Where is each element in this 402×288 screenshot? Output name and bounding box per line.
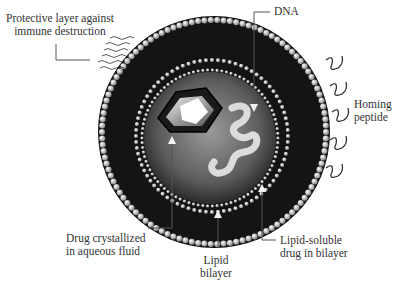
homing-peptide-icons <box>326 56 349 177</box>
label-line: Lipid <box>200 254 232 267</box>
label-line: Drug crystallized <box>66 232 146 245</box>
label-dna: DNA <box>274 5 299 18</box>
label-line: in aqueous fluid <box>66 245 146 258</box>
label-line: Protective layer against <box>6 12 114 25</box>
label-line: Homing <box>354 98 392 111</box>
label-lipid-soluble-drug: Lipid-soluble drug in bilayer <box>280 234 348 260</box>
label-line: immune destruction <box>6 25 114 38</box>
label-line: bilayer <box>200 267 232 280</box>
label-line: peptide <box>354 111 392 124</box>
label-homing-peptide: Homing peptide <box>354 98 392 124</box>
label-drug-crystallized: Drug crystallized in aqueous fluid <box>66 232 146 258</box>
label-line: drug in bilayer <box>280 247 348 260</box>
label-line: Lipid-soluble <box>280 234 348 247</box>
label-lipid-bilayer: Lipid bilayer <box>200 254 232 280</box>
label-protective-layer: Protective layer against immune destruct… <box>6 12 114 38</box>
